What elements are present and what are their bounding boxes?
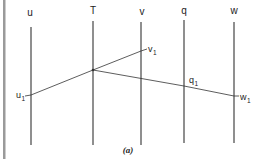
pivot-point bbox=[92, 69, 95, 72]
axis-label-q: q bbox=[181, 5, 187, 16]
line-u1-v1 bbox=[31, 49, 147, 95]
point-label-q1: q1 bbox=[189, 75, 199, 87]
figure-caption: (a) bbox=[123, 145, 134, 155]
axis-label-w: w bbox=[229, 5, 238, 16]
parallel-coordinates-diagram: uTvqw u1v1q1w1 (a) bbox=[0, 0, 263, 159]
left-border bbox=[3, 0, 6, 159]
connecting-lines bbox=[25, 49, 239, 96]
diagram-canvas: uTvqw u1v1q1w1 (a) bbox=[0, 0, 263, 159]
axis-label-v: v bbox=[140, 6, 145, 17]
point-label-v1: v1 bbox=[148, 44, 157, 56]
point-labels: u1v1q1w1 bbox=[16, 44, 251, 104]
line-pivot-w1 bbox=[93, 70, 239, 96]
point-label-w1: w1 bbox=[239, 92, 251, 104]
point-label-u1: u1 bbox=[16, 90, 26, 102]
axis-label-u: u bbox=[27, 7, 33, 18]
axis-labels: uTvqw bbox=[27, 5, 238, 18]
axis-label-T: T bbox=[90, 5, 96, 16]
u1-leader bbox=[25, 95, 31, 96]
